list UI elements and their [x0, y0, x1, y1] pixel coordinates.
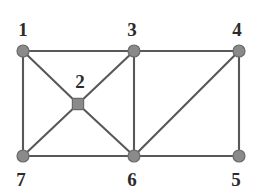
node-label-1: 1 [18, 20, 28, 39]
graph-node-3[interactable] [128, 45, 140, 57]
graph-node-1[interactable] [17, 45, 29, 57]
graph-edge-4-6 [134, 51, 239, 156]
graph-edge-2-6 [78, 104, 134, 156]
graph-node-7[interactable] [17, 150, 29, 162]
graph-edge-1-2 [23, 51, 78, 104]
node-label-2: 2 [75, 72, 85, 91]
node-label-3: 3 [127, 20, 137, 39]
graph-node-6[interactable] [128, 150, 140, 162]
node-label-5: 5 [231, 170, 241, 189]
edges-layer [23, 51, 239, 156]
node-label-7: 7 [16, 170, 26, 189]
graph-figure: 1234567 [0, 0, 260, 194]
graph-node-4[interactable] [233, 45, 245, 57]
graph-edge-2-3 [78, 51, 134, 104]
graph-node-2[interactable] [72, 98, 83, 109]
node-label-6: 6 [127, 170, 137, 189]
node-label-4: 4 [232, 20, 242, 39]
graph-node-5[interactable] [233, 150, 245, 162]
nodes-layer [17, 45, 245, 162]
graph-edge-2-7 [23, 104, 78, 156]
